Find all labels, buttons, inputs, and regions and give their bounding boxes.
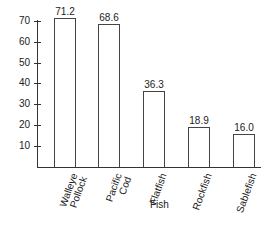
x-axis-label: Fish — [150, 199, 169, 210]
category-label: Pacific Cod — [104, 172, 133, 207]
bar-value-label: 36.3 — [134, 80, 174, 90]
bar — [98, 24, 120, 167]
y-tick — [34, 146, 41, 147]
y-tick-label: 50 — [4, 58, 30, 68]
x-axis — [37, 167, 261, 168]
y-tick-label: 60 — [4, 37, 30, 47]
bar-value-label: 68.6 — [89, 13, 129, 23]
y-tick — [34, 104, 41, 105]
bar-value-label: 71.2 — [45, 7, 85, 17]
y-tick-label: 70 — [4, 16, 30, 26]
category-label: Sablefish — [235, 172, 258, 214]
y-tick — [34, 21, 41, 22]
y-tick — [34, 125, 41, 126]
y-tick — [34, 83, 41, 84]
bar — [143, 91, 165, 167]
bar — [188, 127, 210, 167]
y-tick-label: 20 — [4, 120, 30, 130]
bar-value-label: 18.9 — [179, 116, 219, 126]
y-tick-label: 30 — [4, 99, 30, 109]
y-tick-label: 40 — [4, 78, 30, 88]
category-label: Walleye Pollock — [58, 172, 89, 212]
y-tick — [34, 42, 41, 43]
bar — [233, 134, 255, 167]
y-tick — [34, 63, 41, 64]
y-tick-label: 10 — [4, 141, 30, 151]
bar — [54, 18, 76, 167]
bar-value-label: 16.0 — [224, 123, 264, 133]
category-label: Rockfish — [191, 172, 214, 211]
